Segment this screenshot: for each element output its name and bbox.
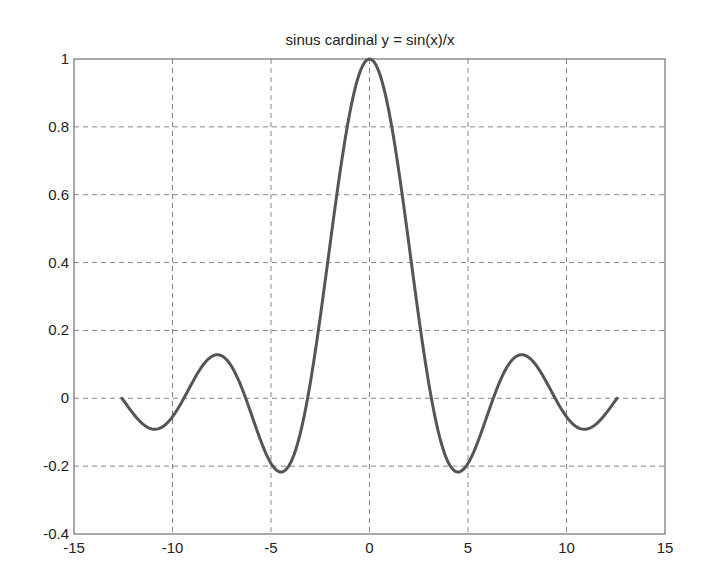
y-tick-label: -0.4 bbox=[43, 525, 69, 542]
y-axis-ticks: -0.4-0.200.20.40.60.81 bbox=[43, 50, 69, 542]
x-tick-label: 5 bbox=[464, 539, 472, 556]
y-tick-label: -0.2 bbox=[43, 457, 69, 474]
x-tick-label: 10 bbox=[558, 539, 575, 556]
x-axis-ticks: -15-10-5051015 bbox=[63, 539, 673, 556]
y-tick-label: 1 bbox=[61, 50, 69, 67]
y-tick-label: 0.4 bbox=[48, 254, 69, 271]
x-tick-label: 15 bbox=[657, 539, 674, 556]
y-tick-label: 0.2 bbox=[48, 321, 69, 338]
x-tick-label: -5 bbox=[264, 539, 277, 556]
y-tick-label: 0 bbox=[61, 389, 69, 406]
sinc-chart: sinus cardinal y = sin(x)/x -15-10-50510… bbox=[0, 0, 706, 587]
x-tick-label: 0 bbox=[365, 539, 373, 556]
x-tick-label: -10 bbox=[162, 539, 184, 556]
y-tick-label: 0.6 bbox=[48, 186, 69, 203]
y-tick-label: 0.8 bbox=[48, 118, 69, 135]
chart-title: sinus cardinal y = sin(x)/x bbox=[286, 31, 455, 48]
grid-lines bbox=[74, 59, 665, 534]
